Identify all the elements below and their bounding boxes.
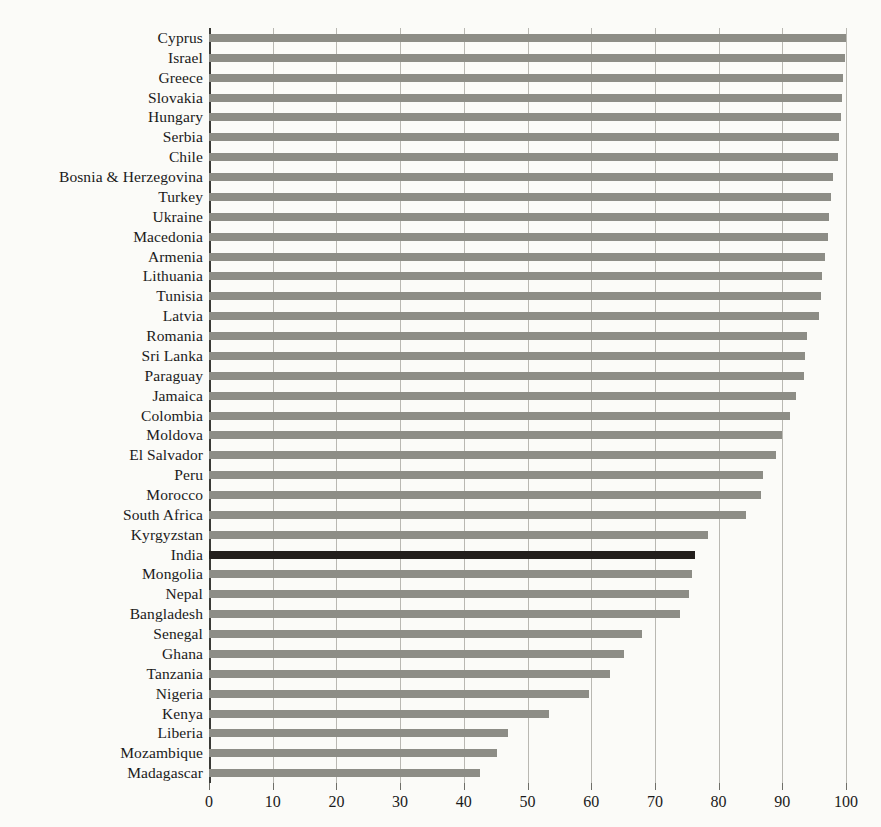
bar-slovakia[interactable]	[209, 94, 842, 102]
bar-greece[interactable]	[209, 74, 843, 82]
bar-row[interactable]	[209, 604, 846, 625]
bar-mozambique[interactable]	[209, 749, 497, 757]
bar-bangladesh[interactable]	[209, 610, 680, 618]
bar-row[interactable]	[209, 584, 846, 605]
bar-india[interactable]	[209, 551, 695, 559]
bar-row[interactable]	[209, 684, 846, 705]
category-label-sri-lanka: Sri Lanka	[0, 346, 203, 367]
bar-row[interactable]	[209, 743, 846, 764]
xtick-60	[591, 783, 592, 790]
bar-hungary[interactable]	[209, 113, 841, 121]
value-axis: 0102030405060708090100	[209, 783, 846, 823]
bar-serbia[interactable]	[209, 133, 839, 141]
bar-row[interactable]	[209, 545, 846, 566]
bar-tunisia[interactable]	[209, 292, 821, 300]
bar-row[interactable]	[209, 564, 846, 585]
bar-row[interactable]	[209, 445, 846, 466]
bar-lithuania[interactable]	[209, 272, 822, 280]
bar-row[interactable]	[209, 664, 846, 685]
category-axis-labels: CyprusIsraelGreeceSlovakiaHungarySerbiaC…	[0, 28, 203, 783]
bar-armenia[interactable]	[209, 253, 825, 261]
bar-macedonia[interactable]	[209, 233, 828, 241]
category-label-romania: Romania	[0, 326, 203, 347]
bar-row[interactable]	[209, 763, 846, 784]
bar-tanzania[interactable]	[209, 670, 610, 678]
category-label-madagascar: Madagascar	[0, 763, 203, 784]
xtick-100	[846, 783, 847, 790]
bar-row[interactable]	[209, 704, 846, 725]
bar-ghana[interactable]	[209, 650, 624, 658]
bar-nepal[interactable]	[209, 590, 689, 598]
category-label-cyprus: Cyprus	[0, 28, 203, 49]
bar-row[interactable]	[209, 425, 846, 446]
bar-row[interactable]	[209, 68, 846, 89]
bar-row[interactable]	[209, 187, 846, 208]
bar-sri-lanka[interactable]	[209, 352, 805, 360]
category-label-serbia: Serbia	[0, 127, 203, 148]
bar-row[interactable]	[209, 266, 846, 287]
bar-israel[interactable]	[209, 54, 845, 62]
bar-kenya[interactable]	[209, 710, 549, 718]
bar-colombia[interactable]	[209, 412, 790, 420]
bar-kyrgyzstan[interactable]	[209, 531, 708, 539]
bar-jamaica[interactable]	[209, 392, 796, 400]
category-label-israel: Israel	[0, 48, 203, 69]
bar-row[interactable]	[209, 644, 846, 665]
bar-row[interactable]	[209, 723, 846, 744]
bar-bosnia-herzegovina[interactable]	[209, 173, 833, 181]
bar-ukraine[interactable]	[209, 213, 829, 221]
bar-row[interactable]	[209, 326, 846, 347]
category-label-senegal: Senegal	[0, 624, 203, 645]
category-label-ukraine: Ukraine	[0, 207, 203, 228]
bar-romania[interactable]	[209, 332, 807, 340]
bar-south-africa[interactable]	[209, 511, 746, 519]
category-label-bosnia-herzegovina: Bosnia & Herzegovina	[0, 167, 203, 188]
bar-row[interactable]	[209, 286, 846, 307]
bar-row[interactable]	[209, 127, 846, 148]
bar-row[interactable]	[209, 306, 846, 327]
category-label-greece: Greece	[0, 68, 203, 89]
bar-morocco[interactable]	[209, 491, 761, 499]
bar-liberia[interactable]	[209, 729, 508, 737]
xtick-label-60: 60	[583, 792, 599, 812]
bar-row[interactable]	[209, 485, 846, 506]
xtick-70	[655, 783, 656, 790]
bar-row[interactable]	[209, 386, 846, 407]
bar-moldova[interactable]	[209, 431, 782, 439]
bar-row[interactable]	[209, 525, 846, 546]
bar-row[interactable]	[209, 107, 846, 128]
bar-row[interactable]	[209, 28, 846, 49]
xtick-label-0: 0	[205, 792, 213, 812]
bar-row[interactable]	[209, 406, 846, 427]
bar-mongolia[interactable]	[209, 570, 692, 578]
bar-row[interactable]	[209, 624, 846, 645]
bar-turkey[interactable]	[209, 193, 831, 201]
bar-row[interactable]	[209, 207, 846, 228]
bar-row[interactable]	[209, 465, 846, 486]
category-label-slovakia: Slovakia	[0, 88, 203, 109]
category-label-south-africa: South Africa	[0, 505, 203, 526]
bar-paraguay[interactable]	[209, 372, 804, 380]
bar-senegal[interactable]	[209, 630, 642, 638]
bar-nigeria[interactable]	[209, 690, 589, 698]
bar-madagascar[interactable]	[209, 769, 480, 777]
bar-row[interactable]	[209, 346, 846, 367]
gridline-100	[846, 28, 847, 783]
bar-row[interactable]	[209, 167, 846, 188]
bar-cyprus[interactable]	[209, 34, 846, 42]
category-label-bangladesh: Bangladesh	[0, 604, 203, 625]
xtick-90	[782, 783, 783, 790]
xtick-80	[719, 783, 720, 790]
bar-row[interactable]	[209, 505, 846, 526]
bar-latvia[interactable]	[209, 312, 819, 320]
bar-el-salvador[interactable]	[209, 451, 776, 459]
bar-row[interactable]	[209, 247, 846, 268]
bar-row[interactable]	[209, 366, 846, 387]
bar-row[interactable]	[209, 227, 846, 248]
bar-row[interactable]	[209, 88, 846, 109]
xtick-label-100: 100	[834, 792, 858, 812]
bar-row[interactable]	[209, 48, 846, 69]
bar-chile[interactable]	[209, 153, 838, 161]
bar-peru[interactable]	[209, 471, 763, 479]
bar-row[interactable]	[209, 147, 846, 168]
